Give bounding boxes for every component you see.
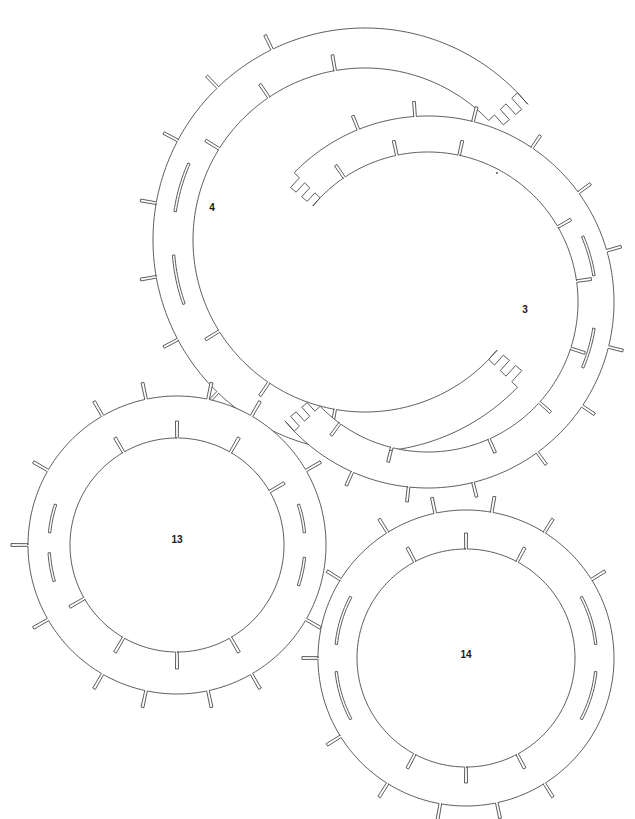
stray-marks-layer — [496, 172, 498, 174]
stray-mark-0 — [496, 172, 498, 174]
part-label-14: 14 — [460, 649, 472, 660]
part-outline-14[interactable] — [302, 496, 614, 819]
part-4[interactable] — [140, 28, 528, 452]
part-label-4: 4 — [209, 202, 215, 213]
part-3[interactable] — [285, 101, 623, 502]
drawing-canvas: 431314 — [0, 0, 635, 819]
parts-layer — [11, 28, 623, 819]
parts-drawing-svg: 431314 — [0, 0, 635, 819]
part-14[interactable] — [302, 496, 614, 819]
part-outline-3[interactable] — [285, 101, 623, 502]
part-label-13: 13 — [171, 534, 183, 545]
part-label-3: 3 — [522, 304, 528, 315]
part-outline-4[interactable] — [140, 28, 528, 452]
